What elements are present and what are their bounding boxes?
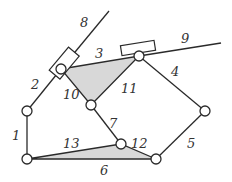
label-9: 9: [181, 31, 189, 46]
joint-c: [86, 100, 96, 110]
label-11: 11: [121, 81, 138, 96]
joint-f: [116, 139, 126, 149]
linkage-diagram: 1 2 3 4 5 6 7 8 9 10 11 12 13: [0, 0, 232, 182]
link-5: [156, 111, 205, 159]
label-12: 12: [131, 136, 148, 151]
label-5: 5: [187, 136, 195, 151]
label-13: 13: [63, 136, 80, 151]
label-4: 4: [170, 64, 179, 79]
joint-b: [134, 51, 144, 61]
joint-d: [22, 106, 32, 116]
label-10: 10: [63, 87, 80, 102]
label-6: 6: [100, 163, 108, 178]
label-8: 8: [80, 15, 88, 30]
joint-e: [22, 154, 32, 164]
label-2: 2: [30, 77, 39, 92]
label-1: 1: [12, 128, 20, 143]
joint-a: [56, 64, 66, 74]
joint-g: [151, 154, 161, 164]
label-3: 3: [95, 46, 103, 61]
label-7: 7: [109, 116, 118, 131]
joint-h: [200, 106, 210, 116]
